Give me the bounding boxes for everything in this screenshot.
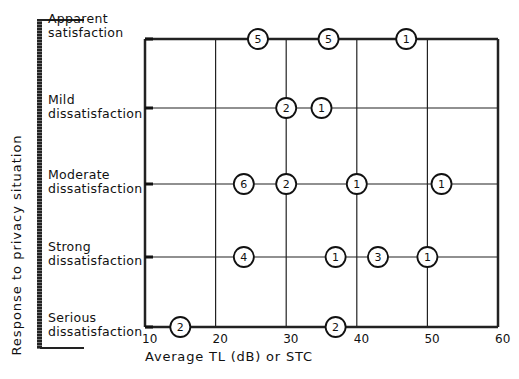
x-tick-label: 60	[495, 332, 510, 346]
svg-text:1: 1	[438, 178, 445, 191]
x-tick-label: 40	[354, 332, 369, 346]
svg-text:2: 2	[177, 321, 184, 334]
data-point-circle: 1	[312, 98, 332, 118]
svg-text:2: 2	[332, 321, 339, 334]
svg-text:1: 1	[403, 33, 410, 46]
x-tick-label: 30	[283, 332, 298, 346]
data-point-circle: 1	[396, 29, 416, 49]
data-point-circle: 1	[326, 247, 346, 267]
data-point-circle: 5	[248, 29, 268, 49]
svg-text:1: 1	[353, 178, 360, 191]
data-point-circle: 6	[234, 174, 254, 194]
data-point-circle: 1	[417, 247, 437, 267]
svg-text:1: 1	[424, 251, 431, 264]
svg-text:6: 6	[240, 178, 247, 191]
svg-text:1: 1	[318, 102, 325, 115]
data-point-circle: 3	[368, 247, 388, 267]
x-tick-label: 10	[142, 332, 157, 346]
plot-area: 551216211413122	[0, 0, 519, 379]
svg-text:1: 1	[332, 251, 339, 264]
svg-text:2: 2	[283, 102, 290, 115]
data-point-circle: 5	[319, 29, 339, 49]
data-point-circle: 2	[276, 174, 296, 194]
data-point-circle: 1	[432, 174, 452, 194]
data-point-circle: 1	[347, 174, 367, 194]
svg-text:5: 5	[325, 33, 332, 46]
svg-text:3: 3	[374, 251, 381, 264]
data-point-circle: 2	[170, 317, 190, 337]
data-point-circle: 2	[326, 317, 346, 337]
x-axis-label: Average TL (dB) or STC	[145, 349, 313, 364]
data-point-circle: 4	[234, 247, 254, 267]
x-tick-label: 50	[424, 332, 439, 346]
svg-text:5: 5	[254, 33, 261, 46]
svg-text:4: 4	[240, 251, 247, 264]
data-point-circle: 2	[276, 98, 296, 118]
x-tick-label: 20	[213, 332, 228, 346]
svg-text:2: 2	[283, 178, 290, 191]
